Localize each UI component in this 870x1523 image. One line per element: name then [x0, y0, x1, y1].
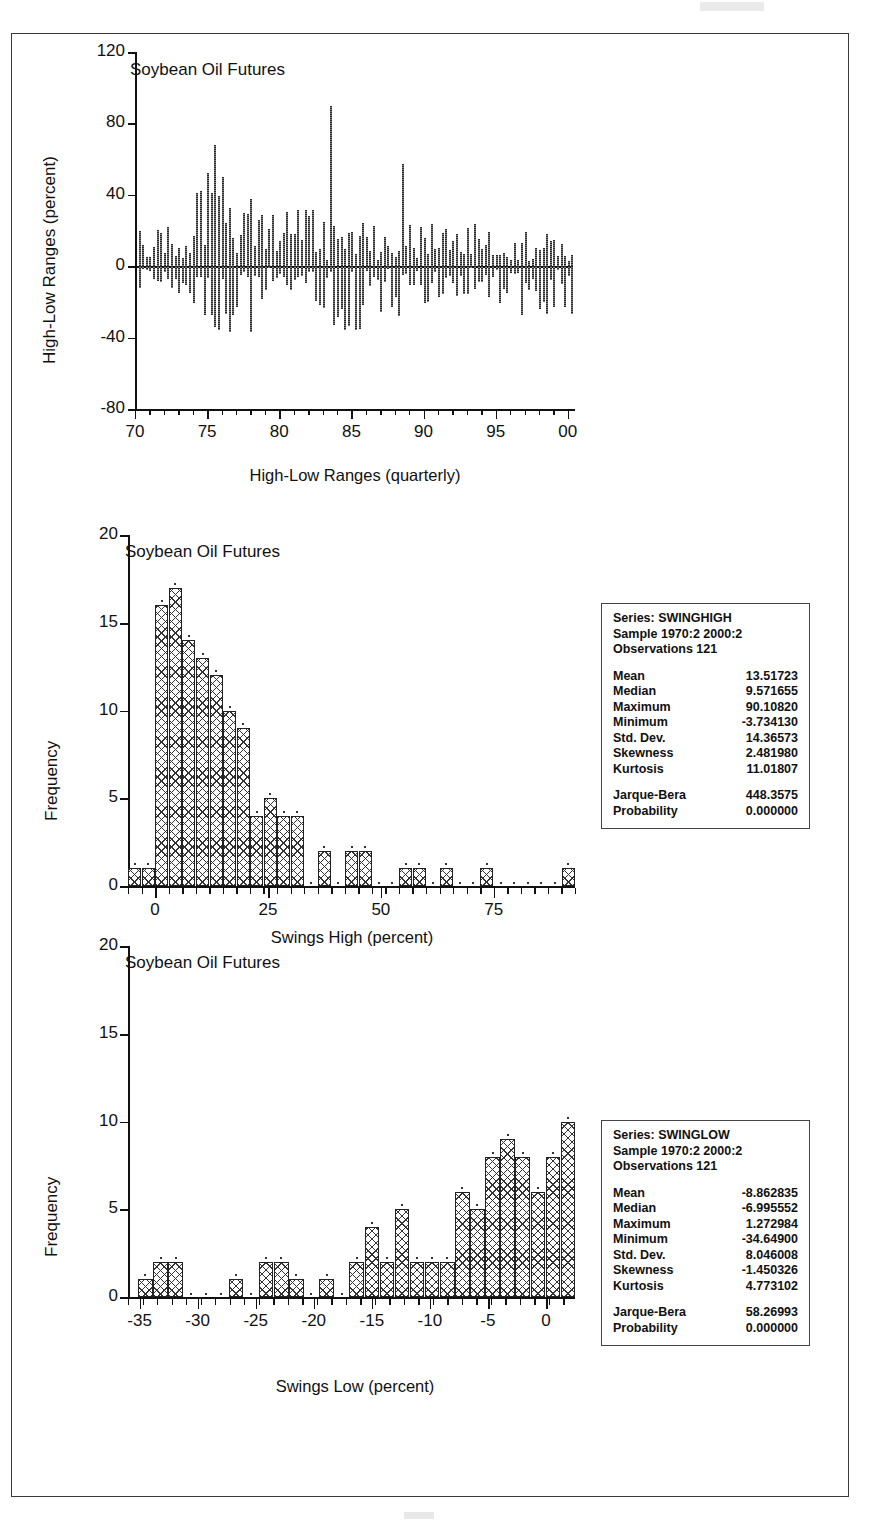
stats-row-value: 0.000000: [746, 804, 798, 820]
chart1-x-tick: [164, 410, 165, 415]
chart3-x-minor-tick: [447, 1299, 448, 1305]
chart2-x-minor-tick: [250, 888, 251, 894]
chart3-x-minor-tick: [549, 1299, 550, 1305]
chart2-y-tick-label: 20: [80, 524, 118, 544]
stats-row: Jarque-Bera58.26993: [613, 1305, 798, 1321]
chart3-bar-marker: [235, 1274, 237, 1276]
chart2-bar: [562, 868, 575, 886]
chart1-spike-positive: [362, 223, 364, 266]
stats-row-value: 13.51723: [746, 669, 798, 685]
chart2-bar-marker: [202, 653, 204, 655]
chart1-spike-positive: [279, 241, 281, 266]
chart1-spike-negative: [196, 266, 198, 277]
stats-spacer: [613, 658, 798, 669]
chart2-x-minor-tick: [548, 888, 549, 894]
chart1-spike-negative: [561, 266, 563, 284]
stats-row-value: 4.773102: [746, 1279, 798, 1295]
chart1-y-tick: [128, 52, 135, 54]
chart1-spike-positive: [153, 247, 155, 266]
chart1-x-tick: [366, 410, 367, 415]
chart3-bar: [168, 1262, 183, 1297]
chart1-spike-positive: [405, 246, 407, 267]
chart2-x-minor-tick: [372, 888, 373, 894]
stats-row-label: Skewness: [613, 746, 683, 762]
chart3-y-tick: [120, 946, 128, 948]
chart1-x-tick: [525, 410, 526, 415]
chart1-y-tick: [128, 266, 135, 268]
chart2-y-tick-label: 5: [80, 787, 118, 807]
chart1-spike-negative: [470, 266, 472, 268]
chart3-bar-marker: [401, 1204, 403, 1206]
chart2-bar: [277, 816, 290, 886]
stats-row: Minimum-34.64900: [613, 1232, 798, 1248]
stats-row-label: Kurtosis: [613, 762, 674, 778]
chart1-spike-positive: [254, 246, 256, 267]
chart3-bar-marker: [537, 1187, 539, 1189]
chart3-bar-marker: [160, 1257, 162, 1259]
chart2-x-minor-tick: [426, 888, 427, 894]
chart1-spike-negative: [384, 266, 386, 282]
chart1-spike-negative: [326, 266, 328, 278]
chart1-spike-positive: [492, 255, 494, 266]
stats-row-label: Kurtosis: [613, 1279, 674, 1295]
chart3-x-minor-tick: [230, 1299, 231, 1305]
stats-series-line: Series: SWINGHIGH: [613, 611, 798, 627]
chart1-y-tick-label: -80: [83, 398, 125, 418]
chart1-spike-negative: [405, 266, 407, 273]
chart2-bar: [264, 798, 277, 886]
chart1-spike-negative: [207, 266, 209, 277]
chart1-spike-negative: [539, 266, 541, 309]
chart2-x-minor-tick: [182, 888, 183, 894]
chart1-y-axis-title: High-Low Ranges (percent): [40, 156, 60, 364]
chart1-spike-positive: [413, 248, 415, 266]
chart1-spike-negative: [139, 266, 141, 288]
chart1-spike-negative: [333, 266, 335, 324]
chart1-spike-negative: [204, 266, 206, 315]
chart2-x-minor-tick: [331, 888, 332, 894]
chart1-spike-negative: [506, 266, 508, 293]
stats-row: Std. Dev.14.36573: [613, 731, 798, 747]
chart1-spike-positive: [258, 220, 260, 267]
chart2-x-tick-label: 0: [133, 900, 177, 920]
chart1-spike-negative: [571, 266, 573, 314]
chart1-spike-negative: [564, 266, 566, 307]
chart2-x-minor-tick: [385, 888, 386, 894]
chart1-spike-negative: [380, 266, 382, 312]
chart3-y-tick-label: 0: [80, 1286, 118, 1306]
stats-row-value: 14.36573: [746, 731, 798, 747]
chart1-spike-negative: [279, 266, 281, 274]
chart1-spike-negative: [236, 266, 238, 307]
chart2-bar: [399, 868, 412, 886]
chart1-spike-negative: [218, 266, 220, 330]
chart1-y-tick-label: 80: [83, 112, 125, 132]
chart3-bar: [395, 1209, 410, 1297]
chart3-x-minor-tick: [259, 1299, 260, 1305]
chart1-spike-positive: [409, 225, 411, 266]
chart1-spike-negative: [214, 266, 216, 327]
chart2-empty-bin-marker: [378, 882, 380, 884]
stats-row: Median-6.995552: [613, 1201, 798, 1217]
chart3-y-axis-title: Frequency: [42, 1177, 62, 1257]
chart1-spike-positive: [276, 251, 278, 266]
chart1-spike-negative: [398, 266, 400, 316]
chart1-spike-negative: [200, 266, 202, 277]
stats-row: Jarque-Bera448.3575: [613, 788, 798, 804]
chart3-x-tick: [198, 1299, 200, 1309]
chart1-spike-positive: [384, 237, 386, 266]
chart3-x-minor-tick: [331, 1299, 332, 1305]
chart1-x-tick: [452, 410, 453, 415]
chart1-spike-positive: [463, 254, 465, 266]
chart3-x-tick: [256, 1299, 258, 1309]
chart1-spike-negative: [442, 266, 444, 294]
chart3-bar-marker: [144, 1274, 146, 1276]
stats-sample-line: Sample 1970:2 2000:2: [613, 627, 798, 643]
chart3-bar: [319, 1279, 334, 1297]
chart2-empty-bin-marker: [513, 882, 515, 884]
chart1-spike-positive: [185, 246, 187, 266]
chart3-bar: [229, 1279, 244, 1297]
chart2-bar: [155, 605, 168, 886]
chart1-spike-positive: [297, 210, 299, 266]
chart3-bar-marker: [265, 1257, 267, 1259]
chart3-bar: [410, 1262, 425, 1297]
stats-box-swinglow: Series: SWINGLOW Sample 1970:2 2000:2 Ob…: [601, 1120, 810, 1346]
